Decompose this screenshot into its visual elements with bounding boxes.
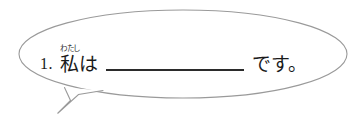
sentence-line: 1. わたし 私 は です。 (40, 38, 330, 74)
answer-blank-line[interactable] (106, 69, 244, 71)
ruby-word-watashi: わたし 私 (60, 55, 79, 74)
speech-bubble-exercise-card: 1. わたし 私 は です。 (0, 0, 363, 118)
item-number: 1. (40, 56, 53, 74)
kanji-watashi: 私 (60, 53, 79, 75)
furigana-reading: わたし (60, 45, 79, 53)
speech-bubble-tail (58, 88, 104, 114)
copula-desu: です。 (252, 55, 307, 74)
particle-wa: は (79, 55, 98, 74)
